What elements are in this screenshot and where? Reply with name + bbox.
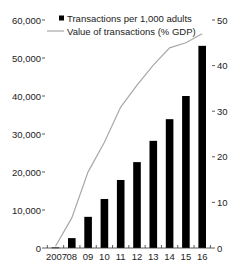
legend-bar-swatch <box>59 16 64 21</box>
x-tick-label: 16 <box>197 251 208 262</box>
bar-series <box>52 46 206 248</box>
right-tick-label: 30 <box>217 106 228 117</box>
legend-line-label: Value of transactions (% GDP) <box>67 26 196 37</box>
left-tick-label: 20,000 <box>12 167 41 178</box>
right-tick-label: 10 <box>217 197 228 208</box>
left-tick-label: 50,000 <box>12 53 41 64</box>
bar-08 <box>68 238 76 248</box>
x-tick-label: 12 <box>132 251 143 262</box>
x-tick-label: 2007 <box>46 251 67 262</box>
bar-16 <box>198 46 206 248</box>
left-tick-label: 10,000 <box>12 205 41 216</box>
right-tick-label: 50 <box>217 15 228 26</box>
bar-12 <box>133 162 141 248</box>
chart: 010,00020,00030,00040,00050,00060,000 01… <box>0 0 241 274</box>
left-axis: 010,00020,00030,00040,00050,00060,000 <box>12 15 45 254</box>
x-tick-label: 15 <box>181 251 192 262</box>
bar-14 <box>166 119 174 248</box>
bar-13 <box>150 141 158 248</box>
legend: Transactions per 1,000 adults Value of t… <box>47 13 196 37</box>
right-tick-label: 0 <box>217 243 222 254</box>
right-tick-label: 40 <box>217 60 228 71</box>
left-tick-label: 0 <box>36 243 41 254</box>
left-tick-label: 60,000 <box>12 15 41 26</box>
legend-bar-label: Transactions per 1,000 adults <box>67 13 192 24</box>
line-series <box>56 34 203 246</box>
x-tick-label: 08 <box>67 251 78 262</box>
left-tick-label: 30,000 <box>12 129 41 140</box>
left-tick-label: 40,000 <box>12 91 41 102</box>
x-tick-label: 09 <box>83 251 94 262</box>
bar-11 <box>117 180 125 248</box>
bar-15 <box>182 96 190 248</box>
x-tick-label: 13 <box>148 251 159 262</box>
x-tick-label: 10 <box>99 251 110 262</box>
bar-10 <box>101 199 109 248</box>
right-axis: 01020304050 <box>212 15 228 254</box>
right-tick-label: 20 <box>217 151 228 162</box>
x-tick-label: 14 <box>164 251 175 262</box>
bar-09 <box>84 217 92 248</box>
x-tick-label: 11 <box>116 251 126 262</box>
